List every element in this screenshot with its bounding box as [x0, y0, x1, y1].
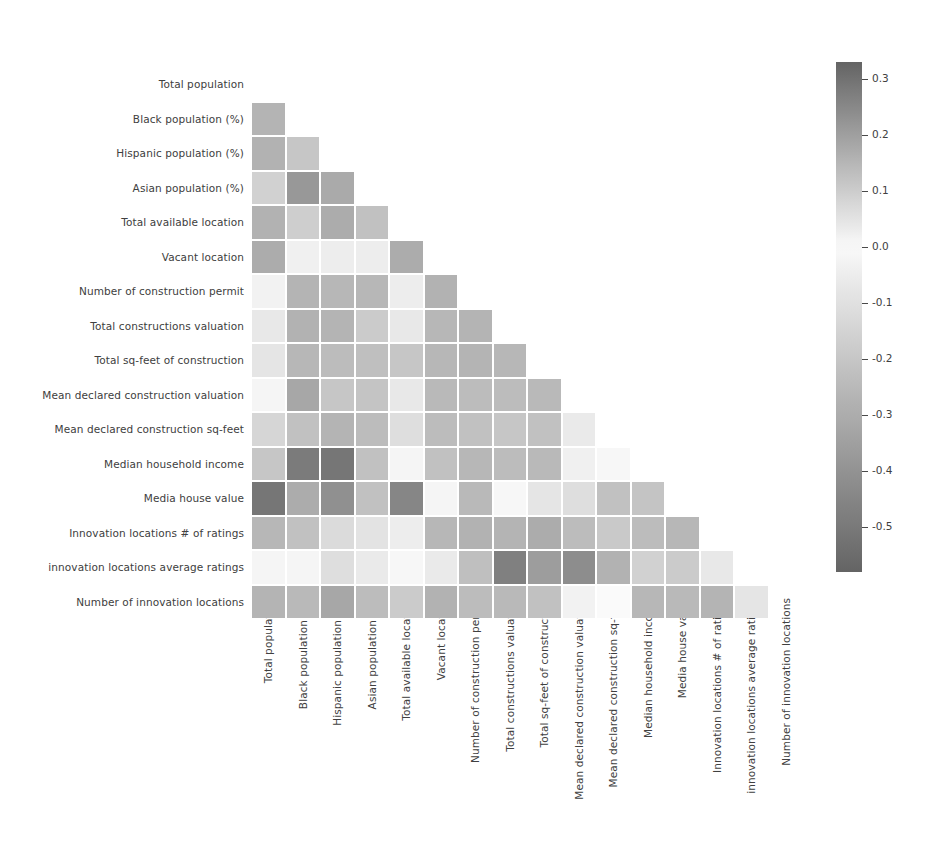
heatmap-cell	[666, 586, 699, 619]
heatmap-cell	[425, 482, 458, 515]
heatmap-cell	[252, 448, 285, 481]
colorbar-tick-label: 0.3	[872, 73, 889, 84]
x-axis-tick-label: Number of innovation locations	[781, 598, 792, 766]
heatmap-cell	[701, 551, 734, 584]
x-axis-tick-label: Number of construction permit	[470, 598, 481, 763]
heatmap-cell	[390, 344, 423, 377]
heatmap-cell	[528, 551, 561, 584]
x-axis-tick-label: innovation locations average ratings	[746, 598, 757, 794]
heatmap-cell	[425, 551, 458, 584]
colorbar-tick-label: -0.5	[872, 521, 893, 532]
y-axis-tick-label: Total available location	[0, 217, 244, 228]
heatmap-cell	[287, 482, 320, 515]
heatmap-cell	[356, 206, 389, 239]
heatmap-cell	[390, 310, 423, 343]
colorbar-tick-label: -0.2	[872, 353, 893, 364]
heatmap-cell	[494, 517, 527, 550]
heatmap-cell	[321, 448, 354, 481]
heatmap-cell	[425, 448, 458, 481]
heatmap-cell	[425, 586, 458, 619]
heatmap-cell	[287, 379, 320, 412]
colorbar-gradient	[836, 62, 862, 572]
heatmap-cell	[701, 586, 734, 619]
heatmap-cell	[459, 551, 492, 584]
colorbar-tick-mark	[862, 415, 868, 416]
heatmap-cell	[252, 517, 285, 550]
heatmap-cell	[494, 379, 527, 412]
x-axis-tick-label: Median household income	[643, 598, 654, 738]
heatmap-cell	[252, 551, 285, 584]
heatmap-cell	[321, 379, 354, 412]
heatmap-cell	[597, 482, 630, 515]
heatmap-cell	[321, 310, 354, 343]
heatmap-cell	[356, 344, 389, 377]
heatmap-cell	[287, 551, 320, 584]
colorbar-tick-label: 0.2	[872, 129, 889, 140]
heatmap-cell	[390, 379, 423, 412]
heatmap-cell	[321, 172, 354, 205]
heatmap-cell	[666, 517, 699, 550]
heatmap-cell	[321, 551, 354, 584]
y-axis-tick-label: Median household income	[0, 459, 244, 470]
heatmap-cell	[287, 413, 320, 446]
heatmap-cell	[494, 482, 527, 515]
heatmap-cell	[321, 275, 354, 308]
y-axis-tick-label: Black population (%)	[0, 114, 244, 125]
heatmap-cell	[597, 551, 630, 584]
heatmap-cell	[356, 586, 389, 619]
heatmap-cell	[425, 275, 458, 308]
heatmap-cell	[425, 413, 458, 446]
heatmap-cell	[494, 413, 527, 446]
heatmap-cell	[356, 310, 389, 343]
heatmap-cell	[252, 275, 285, 308]
heatmap-cell	[287, 137, 320, 170]
heatmap-cell	[356, 275, 389, 308]
heatmap-cell	[390, 241, 423, 274]
y-axis-tick-label: Mean declared construction sq-feet	[0, 424, 244, 435]
heatmap-cell	[563, 448, 596, 481]
heatmap-cell	[425, 344, 458, 377]
heatmap-cell	[528, 413, 561, 446]
colorbar-tick-label: -0.1	[872, 297, 893, 308]
heatmap-cell	[528, 448, 561, 481]
heatmap-cell	[390, 448, 423, 481]
heatmap-cell	[459, 379, 492, 412]
colorbar-tick-mark	[862, 135, 868, 136]
heatmap-cell	[632, 586, 665, 619]
heatmap-cell	[252, 379, 285, 412]
heatmap-cell	[390, 482, 423, 515]
heatmap-cell	[356, 551, 389, 584]
heatmap-cell	[321, 206, 354, 239]
heatmap-cell	[356, 517, 389, 550]
heatmap-cell	[287, 206, 320, 239]
heatmap-cell	[563, 586, 596, 619]
heatmap-cell	[735, 586, 768, 619]
heatmap-cell	[528, 379, 561, 412]
colorbar-tick-mark	[862, 191, 868, 192]
heatmap-cell	[563, 551, 596, 584]
heatmap-cell	[321, 241, 354, 274]
heatmap-cell	[390, 275, 423, 308]
heatmap-cell	[459, 413, 492, 446]
heatmap-cell	[252, 241, 285, 274]
heatmap-cell	[494, 551, 527, 584]
heatmap-cell	[459, 482, 492, 515]
y-axis-tick-label: Total constructions valuation	[0, 321, 244, 332]
colorbar-tick-mark	[862, 303, 868, 304]
heatmap-cell	[459, 586, 492, 619]
heatmap-cell	[494, 448, 527, 481]
heatmap-cell	[632, 551, 665, 584]
x-axis-tick-label: Innovation locations # of ratings	[712, 598, 723, 773]
heatmap-cell	[287, 344, 320, 377]
heatmap-cell	[321, 517, 354, 550]
heatmap-cell	[459, 344, 492, 377]
heatmap-cell	[494, 344, 527, 377]
heatmap-cell	[597, 586, 630, 619]
heatmap-cell	[632, 482, 665, 515]
colorbar-tick-mark	[862, 527, 868, 528]
correlation-heatmap-figure: Total populationBlack population (%)Hisp…	[0, 0, 938, 846]
y-axis-tick-label: Number of innovation locations	[0, 597, 244, 608]
heatmap-cell	[563, 482, 596, 515]
x-axis-tick-label: Total constructions valuation	[505, 598, 516, 752]
heatmap-cell	[528, 586, 561, 619]
